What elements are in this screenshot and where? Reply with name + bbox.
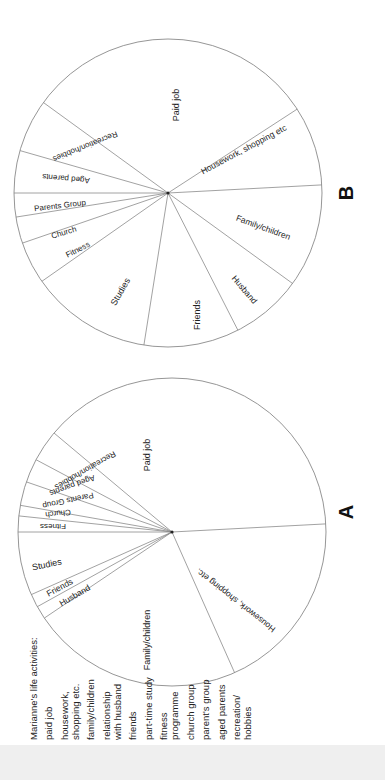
legend-item: church group bbox=[185, 685, 196, 740]
pie-b-letter: B bbox=[335, 186, 357, 200]
legend-title: Marianne's life activities: bbox=[28, 637, 39, 740]
legend-item: with husband bbox=[112, 684, 123, 741]
legend-item: housework, bbox=[59, 691, 70, 740]
legend-item: paid job bbox=[43, 707, 54, 740]
legend-item: family/children bbox=[85, 679, 96, 740]
pie-chart-a: Paid jobHousework, shopping etc.Family/c… bbox=[18, 378, 326, 686]
legend-item: shopping etc. bbox=[70, 683, 81, 740]
legend-item: parent's group bbox=[200, 680, 211, 740]
pie-a-letter: A bbox=[335, 505, 357, 519]
legend-item: relationship bbox=[101, 691, 112, 740]
pie-b-slice-label: Friends bbox=[192, 299, 202, 330]
legend-item: recreation/ bbox=[231, 695, 242, 740]
legend-item: aged parents bbox=[216, 684, 227, 740]
pie-chart-b: Paid jobHousework, shopping etcFamily/ch… bbox=[14, 39, 322, 347]
pie-charts-figure: Paid jobHousework, shopping etcFamily/ch… bbox=[0, 0, 385, 780]
pie-b-center-dot bbox=[166, 191, 169, 194]
legend-item: hobbies bbox=[242, 706, 253, 740]
pie-b-slice-label: Paid job bbox=[171, 89, 181, 122]
pie-a-slice-label: Fitness bbox=[40, 522, 66, 531]
legend-item: friends bbox=[127, 711, 138, 740]
pie-a-slice-label: Paid job bbox=[142, 439, 152, 472]
pie-a-center-dot bbox=[170, 530, 173, 533]
pie-a-slice-label: Family/children bbox=[142, 610, 152, 671]
legend-item: programme bbox=[169, 691, 180, 740]
legend-item: part-time study bbox=[143, 677, 154, 740]
legend-item: fitness bbox=[158, 712, 169, 740]
